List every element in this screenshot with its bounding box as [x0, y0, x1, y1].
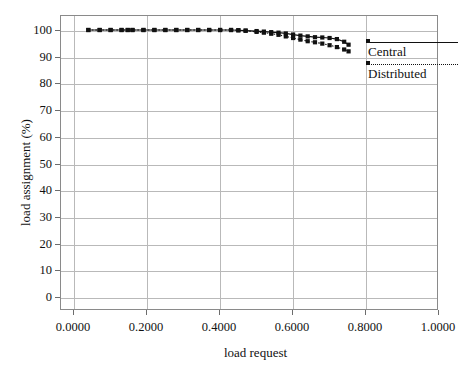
gridline-horizontal	[61, 165, 437, 166]
y-axis-tick	[55, 110, 60, 111]
y-axis-tick-label: 10	[12, 264, 52, 277]
gridline-horizontal	[61, 191, 437, 192]
y-axis-tick-label: 0	[12, 291, 52, 304]
y-axis-tick-label: 90	[12, 51, 52, 64]
y-axis-tick	[55, 217, 60, 218]
gridline-horizontal	[61, 298, 437, 299]
y-axis-tick	[55, 244, 60, 245]
legend-marker-square	[366, 39, 370, 43]
gridline-horizontal	[61, 245, 437, 246]
y-axis-tick-label: 70	[12, 104, 52, 117]
x-axis-tick	[219, 310, 220, 315]
y-axis-tick-label: 100	[12, 24, 52, 37]
gridline-horizontal	[61, 138, 437, 139]
y-axis-tick	[55, 57, 60, 58]
gridline-vertical	[293, 16, 294, 309]
y-axis-tick-label: 60	[12, 131, 52, 144]
x-axis-tick	[73, 310, 74, 315]
y-axis-tick	[55, 83, 60, 84]
x-axis-tick-label: 0.0000	[33, 321, 113, 334]
x-axis-tick	[438, 310, 439, 315]
chart-figure: load assignment (%) load request Central…	[0, 0, 474, 375]
y-axis-tick-label: 80	[12, 77, 52, 90]
y-axis-tick-label: 50	[12, 158, 52, 171]
gridline-horizontal	[61, 84, 437, 85]
legend-marker-square	[366, 61, 370, 65]
y-axis-tick	[55, 137, 60, 138]
gridline-horizontal	[61, 218, 437, 219]
legend-label: Distributed	[368, 66, 427, 82]
chart-legend: Central Distributed	[366, 40, 470, 84]
y-axis-tick-label: 20	[12, 238, 52, 251]
y-axis-tick	[55, 190, 60, 191]
gridline-horizontal	[61, 111, 437, 112]
y-axis-tick	[55, 164, 60, 165]
legend-item-distributed: Distributed	[366, 62, 470, 84]
x-axis-tick	[146, 310, 147, 315]
x-axis-tick	[365, 310, 366, 315]
y-axis-tick-label: 30	[12, 211, 52, 224]
y-axis-tick-label: 40	[12, 184, 52, 197]
x-axis-tick-label: 0.8000	[325, 321, 405, 334]
gridline-vertical	[220, 16, 221, 309]
y-axis-tick	[55, 297, 60, 298]
y-axis-tick	[55, 270, 60, 271]
gridline-vertical	[147, 16, 148, 309]
x-axis-tick-label: 0.2000	[106, 321, 186, 334]
x-axis-title: load request	[73, 345, 438, 361]
gridline-horizontal	[61, 31, 437, 32]
x-axis-tick-label: 0.4000	[179, 321, 259, 334]
y-axis-tick	[55, 30, 60, 31]
legend-swatch-dotted-line	[368, 64, 458, 65]
x-axis-tick-label: 1.0000	[398, 321, 474, 334]
gridline-horizontal	[61, 271, 437, 272]
legend-label: Central	[368, 44, 406, 60]
x-axis-tick-label: 0.6000	[252, 321, 332, 334]
legend-item-central: Central	[366, 40, 470, 62]
x-axis-tick	[292, 310, 293, 315]
gridline-vertical	[74, 16, 75, 309]
legend-swatch-solid-line	[368, 42, 458, 43]
